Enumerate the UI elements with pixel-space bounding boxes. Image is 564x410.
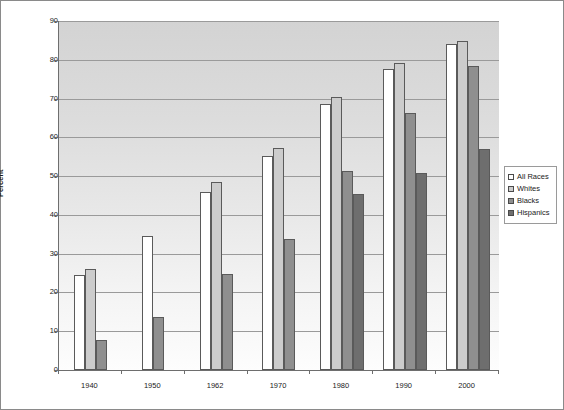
bar (96, 340, 107, 370)
bar (320, 104, 331, 370)
legend-item[interactable]: Whites (508, 183, 553, 195)
x-axis-tick-label: 1980 (309, 382, 372, 390)
bar (383, 69, 394, 370)
bar (331, 97, 342, 370)
bar (262, 156, 273, 370)
x-axis-tick-label: 1970 (247, 382, 310, 390)
bar (284, 239, 295, 370)
bar-group (185, 21, 248, 370)
x-axis-tick-mark (58, 370, 59, 374)
bar (211, 182, 222, 370)
bar (273, 148, 284, 370)
legend-item[interactable]: Hispanics (508, 207, 553, 219)
legend-item[interactable]: Blacks (508, 195, 553, 207)
bar (479, 149, 490, 370)
bar (416, 173, 427, 370)
bar-group (310, 21, 373, 370)
y-axis: 0102030405060708090 (25, 1, 58, 391)
bar-group (436, 21, 499, 370)
legend-item-label: Blacks (517, 197, 539, 205)
x-axis-tick-label: 2000 (435, 382, 498, 390)
legend-swatch-icon (508, 210, 514, 216)
bar (446, 44, 457, 370)
bar (74, 275, 85, 370)
bar (405, 113, 416, 370)
legend-swatch-icon (508, 186, 514, 192)
bar (342, 171, 353, 370)
x-axis-tick-mark (435, 370, 436, 374)
legend-swatch-icon (508, 174, 514, 180)
x-axis-tick-label: 1950 (121, 382, 184, 390)
x-axis-tick-mark (184, 370, 185, 374)
x-axis-tick-label: 1962 (184, 382, 247, 390)
x-axis-tick-mark (372, 370, 373, 374)
y-axis-label: Percent (0, 169, 5, 197)
x-axis-tick-mark (247, 370, 248, 374)
bar (222, 274, 233, 370)
legend: All RacesWhitesBlacksHispanics (504, 166, 557, 224)
bar-group (59, 21, 122, 370)
bar (153, 317, 164, 370)
bar-group (248, 21, 311, 370)
x-axis-tick-mark (309, 370, 310, 374)
bar (457, 41, 468, 370)
bar (142, 236, 153, 370)
bar (468, 66, 479, 370)
x-axis-tick-label: 1990 (372, 382, 435, 390)
legend-item[interactable]: All Races (508, 171, 553, 183)
bar-group (373, 21, 436, 370)
legend-item-label: All Races (517, 173, 549, 181)
x-axis-tick-mark (121, 370, 122, 374)
bar (200, 192, 211, 370)
chart-container: Percent 0102030405060708090 194019501962… (0, 0, 564, 410)
bar-group (122, 21, 185, 370)
legend-item-label: Whites (517, 185, 540, 193)
bar (394, 63, 405, 370)
bar (85, 269, 96, 370)
legend-swatch-icon (508, 198, 514, 204)
legend-item-label: Hispanics (517, 209, 550, 217)
x-axis-tick-mark (498, 370, 499, 374)
bar (353, 194, 364, 370)
plot-area (58, 21, 499, 371)
x-axis-tick-label: 1940 (58, 382, 121, 390)
